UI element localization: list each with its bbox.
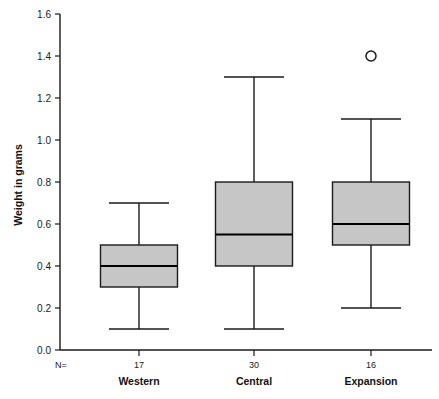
y-tick-label: 1.2 <box>37 93 51 104</box>
y-tick-label: 0.2 <box>37 303 51 314</box>
boxplot-figure: 0.00.20.40.60.81.01.21.41.6 17Western30C… <box>0 0 439 399</box>
boxplot-canvas: 0.00.20.40.60.81.01.21.41.6 17Western30C… <box>0 0 439 399</box>
category-label: Central <box>236 375 272 387</box>
category-label: Western <box>118 375 159 387</box>
box-iqr <box>216 182 293 266</box>
category-label: Expansion <box>344 375 397 387</box>
y-tick-label: 0.4 <box>37 261 51 272</box>
y-tick-label: 0.0 <box>37 345 51 356</box>
n-value: 16 <box>366 360 376 370</box>
y-tick-label: 0.6 <box>37 219 51 230</box>
y-tick-label: 1.0 <box>37 135 51 146</box>
n-value: 30 <box>249 360 259 370</box>
y-tick-label: 0.8 <box>37 177 51 188</box>
box-iqr <box>333 182 410 245</box>
y-tick-label: 1.6 <box>37 9 51 20</box>
n-value: 17 <box>134 360 144 370</box>
n-caption-label: N= <box>55 360 67 370</box>
y-tick-label: 1.4 <box>37 51 51 62</box>
y-axis-title: Weight in grams <box>12 144 24 226</box>
